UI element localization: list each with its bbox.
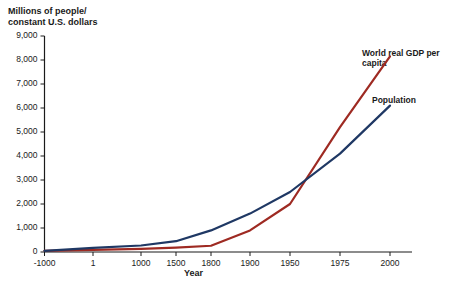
y-tick-label: 2,000 (0, 198, 38, 208)
y-tick-label: 9,000 (0, 30, 38, 40)
x-tick-label: 2000 (366, 258, 414, 268)
y-tick-label: 7,000 (0, 78, 38, 88)
y-tick-label: 5,000 (0, 126, 38, 136)
series-layer (45, 56, 391, 250)
y-tick-label: 8,000 (0, 54, 38, 64)
x-tick-label: 1975 (316, 258, 364, 268)
chart-container: Millions of people/ constant U.S. dollar… (0, 0, 456, 286)
y-tick-label: 3,000 (0, 174, 38, 184)
chart-plot (0, 0, 456, 286)
axis-lines (45, 36, 413, 252)
x-axis-ticks (45, 252, 391, 256)
y-tick-label: 4,000 (0, 150, 38, 160)
series-line (45, 56, 391, 250)
x-tick-label: -1000 (21, 258, 69, 268)
x-tick-label: 1950 (266, 258, 314, 268)
x-tick-label: 1 (69, 258, 117, 268)
series-line (45, 106, 391, 251)
y-tick-label: 6,000 (0, 102, 38, 112)
y-tick-label: 1,000 (0, 222, 38, 232)
y-tick-label: 0 (0, 246, 38, 256)
